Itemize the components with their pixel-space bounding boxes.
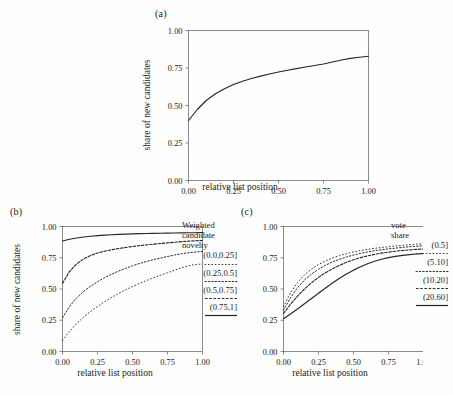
- panel-a-label: (a): [155, 8, 167, 19]
- svg-text:0.75: 0.75: [168, 64, 183, 73]
- panel-a: (a) share of new candidates relative lis…: [0, 0, 453, 200]
- legend-label-b-4: (0.75,1]: [182, 302, 238, 312]
- legend-label-c-3: (10.20]: [391, 275, 449, 285]
- svg-text:0.00: 0.00: [263, 348, 278, 357]
- legend-title-line-2: share: [391, 230, 449, 240]
- svg-text:0.50: 0.50: [125, 358, 140, 367]
- svg-text:0.25: 0.25: [90, 358, 105, 367]
- legend-label-b-1: (0.0,0.25]: [182, 250, 238, 260]
- svg-text:0.25: 0.25: [42, 316, 57, 325]
- svg-text:0.00: 0.00: [55, 358, 70, 367]
- legend-entry-c-2[interactable]: (5.10]: [391, 257, 449, 274]
- svg-text:1.00: 1.00: [42, 223, 57, 232]
- legend-title-line-1: vote: [391, 220, 449, 230]
- svg-text:0.25: 0.25: [168, 139, 183, 148]
- legend-key-b-4: [182, 312, 238, 319]
- svg-text:0.50: 0.50: [168, 102, 183, 111]
- svg-text:0.75: 0.75: [316, 187, 331, 196]
- legend-entry-b-4[interactable]: (0.75,1]: [182, 302, 238, 319]
- legend-entry-c-3[interactable]: (10.20]: [391, 275, 449, 292]
- svg-text:1.00: 1.00: [168, 27, 183, 36]
- svg-text:0.75: 0.75: [42, 254, 57, 263]
- panel-b: (b) share of new candidates relative lis…: [0, 200, 240, 395]
- svg-text:0.75: 0.75: [263, 254, 278, 263]
- panel-c: (c) relative list position 0.000.250.500…: [235, 200, 453, 395]
- svg-text:0.50: 0.50: [271, 187, 286, 196]
- legend-label-c-4: (20.60]: [391, 292, 449, 302]
- legend-key-b-3: [182, 295, 238, 302]
- legend-key-b-1: [182, 261, 238, 268]
- panel-b-legend: Weighted candidate novelty (0.0,0.25] (0…: [182, 220, 238, 319]
- svg-text:1.00: 1.00: [416, 358, 423, 367]
- svg-text:1.00: 1.00: [263, 223, 278, 232]
- panel-b-label: (b): [10, 206, 22, 217]
- svg-text:0.00: 0.00: [42, 348, 57, 357]
- legend-title-line-2: candidate: [182, 230, 238, 240]
- panel-c-legend-title: vote share: [391, 220, 449, 240]
- panel-b-ylabel: share of new candidates: [12, 227, 22, 352]
- svg-text:0.00: 0.00: [168, 177, 183, 186]
- svg-text:0.25: 0.25: [263, 316, 278, 325]
- svg-text:0.50: 0.50: [42, 285, 57, 294]
- svg-text:0.00: 0.00: [181, 187, 196, 196]
- legend-key-c-4: [391, 302, 449, 309]
- legend-title-line-3: novelty: [182, 240, 238, 250]
- legend-title-line-1: Weighted: [182, 220, 238, 230]
- svg-text:0.50: 0.50: [346, 358, 361, 367]
- panel-a-plot: 0.000.250.500.751.00 0.000.250.500.751.0…: [140, 20, 390, 200]
- svg-text:1.00: 1.00: [361, 187, 376, 196]
- legend-entry-b-3[interactable]: (0.5,0.75]: [182, 285, 238, 302]
- legend-entry-b-1[interactable]: (0.0,0.25]: [182, 250, 238, 267]
- legend-entry-c-4[interactable]: (20.60]: [391, 292, 449, 309]
- svg-text:0.25: 0.25: [311, 358, 326, 367]
- figure-root: (a) share of new candidates relative lis…: [0, 0, 453, 395]
- series-all candidates: [189, 56, 369, 120]
- panel-c-label: (c): [241, 206, 253, 217]
- svg-text:0.75: 0.75: [160, 358, 175, 367]
- legend-label-c-2: (5.10]: [391, 257, 449, 267]
- svg-text:0.75: 0.75: [381, 358, 396, 367]
- legend-entry-b-2[interactable]: (0.25,0.5]: [182, 268, 238, 285]
- legend-entry-c-1[interactable]: (0.5]: [391, 240, 449, 257]
- legend-key-c-3: [391, 285, 449, 292]
- legend-key-b-2: [182, 278, 238, 285]
- panel-c-legend: vote share (0.5] (5.10] (10.20]: [391, 220, 449, 309]
- legend-label-b-2: (0.25,0.5]: [182, 268, 238, 278]
- legend-key-c-1: [391, 250, 449, 257]
- svg-text:0.00: 0.00: [276, 358, 291, 367]
- svg-text:1.00: 1.00: [195, 358, 210, 367]
- svg-text:0.50: 0.50: [263, 285, 278, 294]
- panel-b-legend-title: Weighted candidate novelty: [182, 220, 238, 250]
- legend-label-c-1: (0.5]: [391, 240, 449, 250]
- legend-key-c-2: [391, 268, 449, 275]
- legend-label-b-3: (0.5,0.75]: [182, 285, 238, 295]
- svg-text:0.25: 0.25: [226, 187, 241, 196]
